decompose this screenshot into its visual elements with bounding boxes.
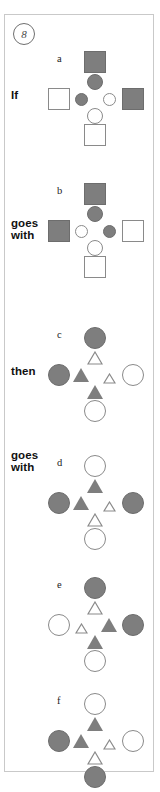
lead-if: If bbox=[11, 89, 18, 101]
shape-e-top-gray-circle bbox=[84, 577, 106, 599]
shape-d-upper-gray-triangle bbox=[87, 479, 103, 493]
shape-a-top-gray-square bbox=[84, 51, 106, 73]
shape-c-left-gray-circle bbox=[48, 364, 70, 386]
lead-then: then bbox=[11, 365, 36, 377]
shape-d-right-gray-circle bbox=[122, 492, 144, 514]
shape-b-inner-right-gray-circle bbox=[103, 225, 116, 238]
shape-e-bottom-white-circle bbox=[84, 650, 106, 672]
item-number-badge: 8 bbox=[13, 23, 35, 45]
shape-b-top-gray-square bbox=[84, 183, 106, 205]
lead-goes-with-1: goes with bbox=[11, 217, 38, 241]
shape-c-inner-left-gray-triangle bbox=[73, 368, 89, 382]
shape-a-inner-left-gray-circle bbox=[75, 93, 88, 106]
shape-a-left-white-square bbox=[48, 88, 70, 110]
panel-d[interactable]: goes with d bbox=[5, 455, 155, 555]
shape-b-bottom-white-square bbox=[84, 256, 106, 278]
shape-c-bottom-white-circle bbox=[84, 400, 106, 422]
shape-d-lower-white-triangle bbox=[87, 513, 103, 527]
shape-f-inner-right-white-triangle bbox=[103, 736, 116, 747]
figure-d bbox=[41, 455, 151, 539]
panel-a[interactable]: If a bbox=[5, 51, 155, 151]
shape-a-bottom-white-square bbox=[84, 124, 106, 146]
shape-d-inner-left-gray-triangle bbox=[73, 496, 89, 510]
lead-goes-with-2: goes with bbox=[11, 449, 38, 473]
shape-a-upper-gray-circle bbox=[87, 74, 103, 90]
shape-c-inner-right-white-triangle bbox=[103, 370, 116, 381]
shape-f-bottom-gray-circle bbox=[84, 766, 106, 788]
figure-b bbox=[41, 183, 151, 267]
shape-f-lower-white-triangle bbox=[87, 751, 103, 765]
panel-f[interactable]: f bbox=[5, 693, 155, 792]
panel-c[interactable]: then c bbox=[5, 327, 155, 427]
shape-f-inner-left-gray-triangle bbox=[73, 734, 89, 748]
shape-a-lower-white-circle bbox=[87, 108, 103, 124]
shape-c-lower-gray-triangle bbox=[87, 385, 103, 399]
shape-a-right-gray-square bbox=[122, 88, 144, 110]
item-number: 8 bbox=[21, 29, 27, 40]
shape-e-left-white-circle bbox=[48, 614, 70, 636]
panel-e[interactable]: e bbox=[5, 577, 155, 677]
shape-d-top-white-circle bbox=[84, 455, 106, 477]
shape-e-inner-right-gray-triangle bbox=[101, 618, 117, 632]
shape-f-upper-gray-triangle bbox=[87, 717, 103, 731]
shape-d-inner-right-white-triangle bbox=[103, 498, 116, 509]
shape-f-right-white-circle bbox=[122, 730, 144, 752]
shape-f-left-gray-circle bbox=[48, 730, 70, 752]
question-sheet: 8 If a goes with b then c goes with d e … bbox=[4, 14, 154, 772]
figure-c bbox=[41, 327, 151, 411]
shape-b-right-white-square bbox=[122, 220, 144, 242]
shape-d-left-gray-circle bbox=[48, 492, 70, 514]
shape-b-lower-white-circle bbox=[87, 240, 103, 256]
shape-b-inner-left-white-circle bbox=[75, 225, 88, 238]
shape-f-top-white-circle bbox=[84, 693, 106, 715]
shape-e-lower-gray-triangle bbox=[87, 635, 103, 649]
figure-e bbox=[41, 577, 151, 661]
shape-e-inner-left-white-triangle bbox=[75, 620, 88, 631]
shape-e-right-gray-circle bbox=[122, 614, 144, 636]
shape-c-upper-white-triangle bbox=[87, 351, 103, 365]
shape-c-right-white-circle bbox=[122, 364, 144, 386]
shape-e-upper-white-triangle bbox=[87, 601, 103, 615]
panel-b[interactable]: goes with b bbox=[5, 183, 155, 283]
shape-c-top-gray-circle bbox=[84, 327, 106, 349]
shape-b-upper-gray-circle bbox=[87, 206, 103, 222]
shape-d-bottom-white-circle bbox=[84, 528, 106, 550]
figure-a bbox=[41, 51, 151, 135]
figure-f bbox=[41, 693, 151, 777]
shape-a-inner-right-white-circle bbox=[103, 93, 116, 106]
shape-b-left-gray-square bbox=[48, 220, 70, 242]
